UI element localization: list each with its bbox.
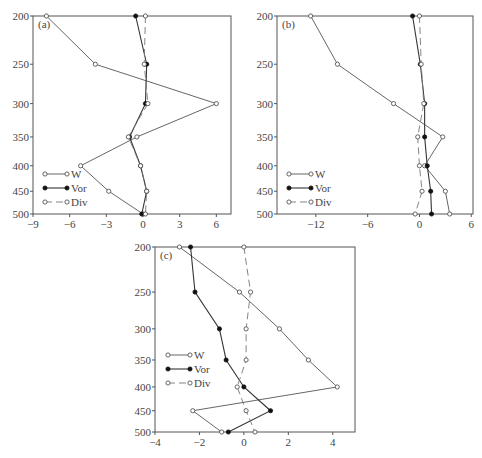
legend-marker (309, 172, 313, 176)
legend-marker (43, 172, 47, 176)
y-tick-label: 350 (257, 131, 274, 143)
data-point-w (441, 135, 445, 139)
x-tick-label: −3 (100, 218, 112, 230)
data-point-vor (268, 409, 272, 413)
panel-b: 200250300350400450500−12−606(b)WVorDiv (257, 10, 475, 230)
y-tick-label: 450 (257, 185, 274, 197)
data-point-div (143, 14, 147, 18)
y-tick-label: 350 (13, 131, 30, 143)
legend-marker (166, 367, 170, 371)
data-point-vor (226, 430, 230, 434)
data-point-vor (410, 14, 414, 18)
data-point-w (214, 102, 218, 106)
y-tick-label: 450 (135, 405, 152, 417)
data-point-div (420, 189, 424, 193)
data-point-div (417, 164, 421, 168)
legend-label-w: W (194, 349, 205, 361)
data-point-vor (425, 164, 429, 168)
legend-marker (309, 186, 313, 190)
data-point-div (126, 135, 130, 139)
y-tick-label: 250 (135, 286, 152, 298)
panel-c: 200250300350400450500−4−2024(c)WVorDiv (135, 241, 356, 448)
legend-marker (43, 200, 47, 204)
series-line-div (415, 16, 424, 214)
data-point-w (237, 290, 241, 294)
y-tick-label: 450 (13, 185, 30, 197)
x-tick-label: −6 (362, 218, 374, 230)
y-tick-label: 250 (13, 58, 30, 70)
figure-three-panel-profiles: 200250300350400450500−9−6−3036(a)WVorDiv… (0, 0, 482, 458)
legend-marker (188, 367, 192, 371)
legend-label-w: W (315, 168, 326, 180)
legend-marker (166, 381, 170, 385)
x-tick-label: −9 (27, 218, 39, 230)
y-tick-label: 400 (257, 160, 274, 172)
data-point-vor (217, 327, 221, 331)
x-tick-label: 4 (330, 436, 336, 448)
series-line-w (179, 247, 337, 432)
data-point-w (135, 135, 139, 139)
data-point-w (277, 327, 281, 331)
legend-label-div: Div (71, 196, 88, 208)
x-tick-label: 0 (417, 218, 423, 230)
series-line-div (237, 247, 255, 432)
x-tick-label: 0 (241, 436, 247, 448)
data-point-div (145, 189, 149, 193)
legend: WVorDiv (43, 168, 88, 208)
data-point-w (309, 14, 313, 18)
legend-label-vor: Vor (315, 182, 331, 194)
data-point-div (244, 327, 248, 331)
data-point-div (143, 212, 147, 216)
data-point-div (417, 14, 421, 18)
x-tick-label: 2 (286, 436, 292, 448)
legend-label-div: Div (315, 196, 332, 208)
legend-marker (287, 186, 291, 190)
data-point-w (306, 358, 310, 362)
data-point-vor (134, 14, 138, 18)
x-tick-label: −2 (194, 436, 206, 448)
legend-marker (309, 200, 313, 204)
y-tick-label: 400 (13, 160, 30, 172)
data-point-div (248, 290, 252, 294)
legend-marker (65, 172, 69, 176)
plot-frame (277, 16, 473, 214)
data-point-div (422, 102, 426, 106)
plot-frame (33, 16, 231, 214)
x-tick-label: −4 (149, 436, 161, 448)
data-point-div (413, 212, 417, 216)
y-tick-label: 350 (135, 354, 152, 366)
y-tick-label: 300 (257, 98, 274, 110)
data-point-w (191, 409, 195, 413)
data-point-div (244, 358, 248, 362)
data-point-div (416, 135, 420, 139)
data-point-div (244, 409, 248, 413)
legend-marker (65, 200, 69, 204)
legend-marker (188, 381, 192, 385)
data-point-w (107, 189, 111, 193)
data-point-w (335, 62, 339, 66)
series-line-div (128, 16, 148, 214)
data-point-w (220, 430, 224, 434)
data-point-w (177, 245, 181, 249)
series-line-vor (130, 16, 147, 214)
panel-a: 200250300350400450500−9−6−3036(a)WVorDiv (13, 10, 232, 230)
data-point-vor (429, 212, 433, 216)
x-tick-label: 6 (469, 218, 475, 230)
data-point-vor (429, 189, 433, 193)
legend-marker (188, 353, 192, 357)
data-point-div (242, 245, 246, 249)
data-point-div (235, 385, 239, 389)
data-point-vor (188, 245, 192, 249)
x-tick-label: −6 (64, 218, 76, 230)
data-point-div (419, 62, 423, 66)
legend-label-w: W (71, 168, 82, 180)
y-tick-label: 200 (257, 10, 274, 22)
legend-label-vor: Vor (71, 182, 87, 194)
x-tick-label: 6 (214, 218, 220, 230)
y-tick-label: 200 (135, 241, 152, 253)
data-point-div (138, 164, 142, 168)
panel-label: (b) (282, 18, 295, 31)
plot-frame (155, 247, 355, 432)
legend-label-vor: Vor (194, 363, 210, 375)
legend: WVorDiv (166, 349, 211, 389)
